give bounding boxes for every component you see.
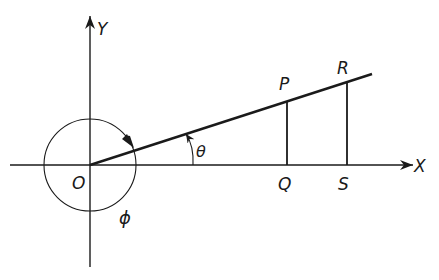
origin-label: O (72, 173, 85, 193)
phi-arrowhead-icon (122, 134, 134, 148)
polar-diagram: Y X O P R Q S θ ϕ (0, 0, 439, 280)
theta-angle-arc (186, 134, 193, 165)
point-r-label: R (337, 58, 349, 78)
point-s-label: S (338, 174, 349, 194)
phi-label: ϕ (119, 207, 131, 228)
x-axis-label: X (413, 156, 426, 176)
ray-op (90, 74, 372, 165)
y-axis-label: Y (97, 19, 109, 39)
theta-label: θ (196, 142, 206, 161)
point-q-label: Q (278, 174, 291, 194)
point-p-label: P (279, 74, 290, 94)
